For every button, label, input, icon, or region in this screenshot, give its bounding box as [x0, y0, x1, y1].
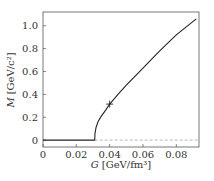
y-tick-label: 1.0: [22, 20, 38, 31]
series-line: [43, 19, 196, 140]
x-axis-label: G[GeV/fm³]: [91, 159, 152, 170]
y-axis-ticks: 00.20.40.60.81.0: [22, 20, 46, 145]
x-tick-label: 0.02: [65, 149, 87, 160]
x-axis-ticks: 00.020.040.060.08: [40, 144, 188, 160]
plot-frame: [43, 12, 199, 147]
x-tick-label: 0: [40, 149, 46, 160]
y-tick-label: 0.2: [22, 112, 38, 123]
y-tick-label: 0.4: [22, 89, 38, 100]
data-series: [43, 19, 199, 140]
chart: 00.020.040.060.08 00.20.40.60.81.0 G[GeV…: [0, 0, 214, 181]
y-tick-label: 0: [32, 135, 38, 146]
y-tick-label: 0.8: [22, 43, 38, 54]
y-tick-label: 0.6: [22, 66, 38, 77]
y-axis-label: M[GeV/c²]: [5, 52, 16, 108]
x-tick-label: 0.08: [165, 149, 187, 160]
